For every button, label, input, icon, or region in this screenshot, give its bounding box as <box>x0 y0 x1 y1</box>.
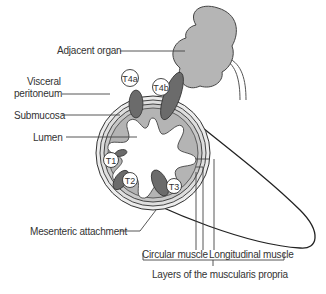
adjacent-organ <box>173 6 246 100</box>
label-longitudinal-muscle: Longitudinal muscle <box>209 249 294 260</box>
label-layers-caption: Layers of the muscularis propria <box>152 269 288 280</box>
svg-text:T4b: T4b <box>153 83 169 93</box>
label-submucosa: Submucosa <box>14 110 65 121</box>
svg-text:T3: T3 <box>169 182 180 192</box>
svg-text:T2: T2 <box>125 176 136 186</box>
label-circular-muscle: Circular muscle <box>142 249 208 260</box>
tumour-t4a <box>129 90 143 118</box>
label-visceral-peritoneum-1: Visceral <box>27 76 61 87</box>
svg-text:T4a: T4a <box>122 74 138 84</box>
svg-text:T1: T1 <box>106 156 117 166</box>
label-mesenteric-attachment: Mesenteric attachment <box>30 226 127 237</box>
label-visceral-peritoneum-2: peritoneum <box>14 88 62 99</box>
label-adjacent-organ: Adjacent organ <box>57 45 121 56</box>
label-lumen: Lumen <box>33 132 63 143</box>
